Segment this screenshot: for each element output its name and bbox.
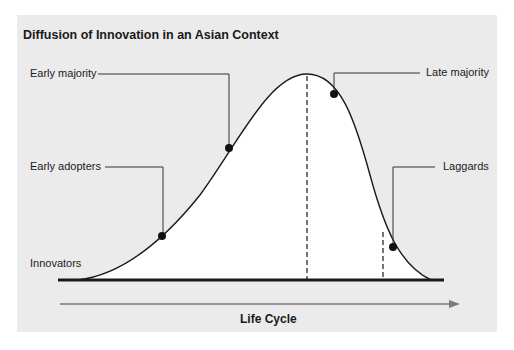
- adoption-curve-area: [78, 74, 431, 280]
- life-cycle-arrow-head: [449, 300, 460, 308]
- label-innovators: Innovators: [30, 257, 81, 269]
- label-early-majority: Early majority: [30, 67, 97, 79]
- early-majority-marker: [225, 144, 233, 152]
- early-majority-connector: [98, 74, 229, 148]
- x-axis-label: Life Cycle: [240, 312, 297, 326]
- late-majority-connector: [334, 73, 420, 94]
- label-laggards: Laggards: [443, 160, 489, 172]
- laggards-connector: [393, 167, 435, 247]
- label-early-adopters: Early adopters: [30, 160, 101, 172]
- early-adopters-connector: [105, 167, 163, 236]
- late-majority-marker: [330, 90, 338, 98]
- label-late-majority: Late majority: [426, 66, 489, 78]
- laggards-marker: [389, 243, 397, 251]
- early-adopters-marker: [158, 232, 166, 240]
- diffusion-curve-chart: [0, 0, 514, 350]
